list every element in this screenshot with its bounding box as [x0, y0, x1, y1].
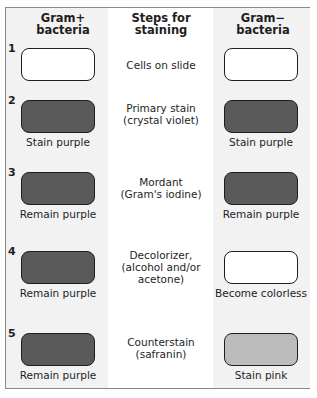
step-description: Counterstain(safranin): [108, 336, 214, 360]
gram-negative-cell-box: [224, 172, 298, 205]
step-number: 4: [8, 245, 16, 258]
gram-positive-cell-box: [21, 251, 95, 284]
gram-negative-cell-box: [224, 333, 298, 366]
step-line: (Gram's iodine): [108, 188, 214, 200]
gram-positive-header: Gram+ bacteria: [28, 12, 98, 36]
step-line: (alcohol and/or: [108, 261, 214, 273]
step-line: Counterstain: [108, 336, 214, 348]
steps-header: Steps for staining: [108, 12, 214, 36]
gram-positive-cell-box: [21, 333, 95, 366]
gram-negative-result: Stain purple: [211, 136, 311, 148]
step-number: 3: [8, 166, 16, 179]
step-number: 2: [8, 94, 16, 107]
gram-positive-cell-box: [21, 100, 95, 133]
gram-negative-result: Remain purple: [211, 208, 311, 220]
gram-positive-result: Remain purple: [8, 369, 108, 381]
step-description: Primary stain(crystal violet): [108, 102, 214, 126]
step-line: acetone): [108, 273, 214, 285]
gram-negative-cell-box: [224, 48, 298, 81]
gram-negative-cell-box: [224, 100, 298, 133]
step-line: (crystal violet): [108, 114, 214, 126]
gram-positive-result: Stain purple: [8, 136, 108, 148]
gram-negative-result: Become colorless: [211, 287, 311, 299]
gram-positive-cell-box: [21, 48, 95, 81]
step-line: Cells on slide: [108, 59, 214, 71]
header-line: bacteria: [228, 24, 298, 36]
gram-positive-result: Remain purple: [8, 208, 108, 220]
step-line: Primary stain: [108, 102, 214, 114]
gram-positive-cell-box: [21, 172, 95, 205]
step-description: Mordant(Gram's iodine): [108, 176, 214, 200]
gram-negative-result: Stain pink: [211, 369, 311, 381]
step-number: 5: [8, 327, 16, 340]
step-line: Decolorizer,: [108, 249, 214, 261]
gram-negative-cell-box: [224, 251, 298, 284]
step-line: Mordant: [108, 176, 214, 188]
step-description: Decolorizer,(alcohol and/oracetone): [108, 249, 214, 285]
gram-positive-result: Remain purple: [8, 287, 108, 299]
step-description: Cells on slide: [108, 59, 214, 71]
step-number: 1: [8, 42, 16, 55]
header-line: staining: [108, 24, 214, 36]
header-line: bacteria: [28, 24, 98, 36]
gram-negative-header: Gram− bacteria: [228, 12, 298, 36]
step-line: (safranin): [108, 348, 214, 360]
